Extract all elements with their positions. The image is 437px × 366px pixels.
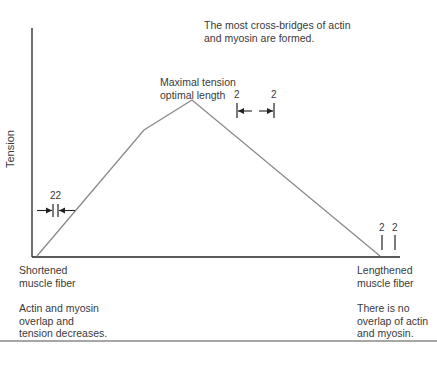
right-note: There is no overlap of actin and myosin. — [357, 302, 428, 340]
top-note-line: and myosin are formed. — [204, 32, 350, 45]
top-note-line: The most cross-bridges of actin — [204, 19, 350, 32]
short-marker-label: 22 — [50, 190, 61, 203]
left-note-line: Actin and myosin — [19, 302, 107, 315]
lengthened-label: Lengthened muscle fiber — [357, 264, 414, 289]
tension-curve — [37, 100, 380, 256]
y-axis-label: Tension — [4, 130, 16, 168]
peak-label-line: optimal length — [160, 89, 236, 102]
right-note-line: There is no — [357, 302, 428, 315]
right-note-line: and myosin. — [357, 327, 428, 340]
long-marker-left: 2 — [379, 222, 385, 235]
long-marker-right: 2 — [392, 222, 398, 235]
left-note-line: tension decreases. — [19, 327, 107, 340]
shortened-label-line: muscle fiber — [19, 277, 76, 290]
short-length-marker — [37, 204, 75, 217]
shortened-label-line: Shortened — [19, 264, 76, 277]
optimal-marker-right: 2 — [271, 89, 277, 102]
shortened-label: Shortened muscle fiber — [19, 264, 76, 289]
long-length-marker — [382, 235, 395, 250]
left-note-line: overlap and — [19, 315, 107, 328]
peak-label-line: Maximal tension — [160, 76, 236, 89]
right-note-line: overlap of actin — [357, 315, 428, 328]
left-note: Actin and myosin overlap and tension dec… — [19, 302, 107, 340]
optimal-length-marker — [237, 103, 274, 118]
lengthened-label-line: Lengthened — [357, 264, 414, 277]
optimal-marker-left: 2 — [234, 89, 240, 102]
lengthened-label-line: muscle fiber — [357, 277, 414, 290]
peak-label: Maximal tension optimal length — [160, 76, 236, 101]
marker-number: 2 — [56, 190, 62, 201]
top-note: The most cross-bridges of actin and myos… — [204, 19, 350, 44]
